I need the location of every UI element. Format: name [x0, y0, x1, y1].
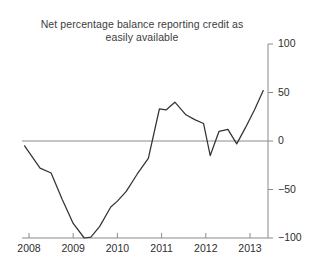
y-axis-tick-label: −50 [278, 183, 296, 195]
y-axis-ticks [268, 44, 273, 238]
y-axis-tick-label: 0 [278, 134, 284, 146]
x-axis-tick-label: 2012 [186, 242, 226, 254]
chart-container: Net percentage balance reporting credit … [0, 0, 315, 273]
x-axis-tick-label: 2013 [230, 242, 270, 254]
series-group [25, 91, 264, 238]
x-axis-tick-label: 2009 [53, 242, 93, 254]
data-series-line [25, 91, 264, 238]
y-axis-tick-label: 50 [278, 86, 290, 98]
y-axis-tick-label: 100 [278, 37, 296, 49]
plot-area [0, 0, 315, 273]
x-axis-tick-label: 2011 [142, 242, 182, 254]
y-axis-tick-label: −100 [278, 231, 302, 243]
x-axis-ticks [29, 233, 250, 238]
x-axis-tick-label: 2010 [97, 242, 137, 254]
x-axis-tick-label: 2008 [9, 242, 49, 254]
